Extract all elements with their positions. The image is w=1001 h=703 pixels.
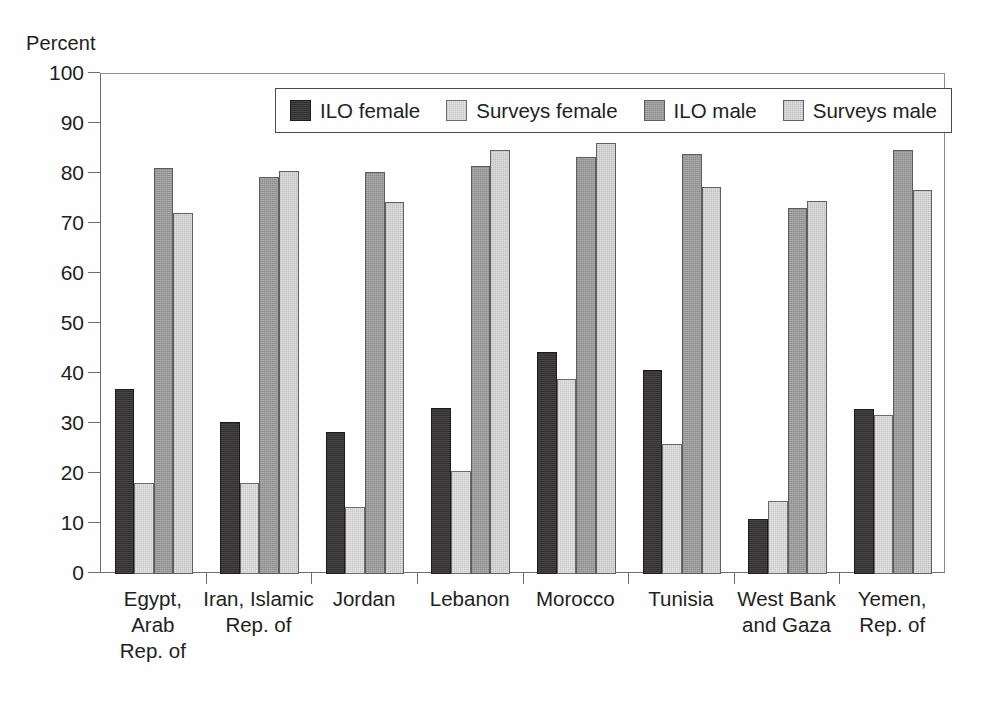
bar [173, 213, 193, 574]
bar [345, 507, 365, 575]
x-axis-group-label-line: Rep. of [831, 612, 953, 638]
bar [431, 408, 451, 574]
x-axis-tick [839, 573, 840, 584]
y-axis-tick [88, 572, 100, 573]
x-axis-group-label-line: and Gaza [726, 612, 848, 638]
bar [788, 208, 808, 575]
x-axis-tick [417, 573, 418, 584]
legend-label: ILO female [320, 99, 420, 123]
x-axis-tick [311, 573, 312, 584]
y-axis-tick [88, 122, 100, 123]
bar [576, 157, 596, 574]
bar [807, 201, 827, 574]
bar [326, 432, 346, 575]
bar [471, 166, 491, 574]
x-axis-group-label: Tunisia [620, 586, 742, 612]
y-axis-tick [88, 422, 100, 423]
y-axis-tick [88, 72, 100, 73]
bar [768, 501, 788, 574]
bar [259, 177, 279, 575]
y-axis-tick-label: 100 [22, 61, 84, 85]
y-axis-tick-label: 70 [22, 211, 84, 235]
x-axis-group-label-line: Morocco [515, 586, 637, 612]
bar [365, 172, 385, 574]
y-axis-tick [88, 372, 100, 373]
legend-swatch-icon [446, 100, 467, 121]
x-axis-group-label-line: Yemen, [831, 586, 953, 612]
bar [748, 519, 768, 574]
bar [682, 154, 702, 574]
x-axis-group-label-line: Egypt, [92, 586, 214, 612]
legend-label: Surveys male [813, 99, 937, 123]
bar [451, 471, 471, 575]
bar [854, 409, 874, 575]
y-axis-tick-label: 80 [22, 161, 84, 185]
y-axis-tick [88, 272, 100, 273]
bar [537, 352, 557, 575]
bar [240, 483, 260, 575]
x-axis-group-label-line: Rep. of [198, 612, 320, 638]
y-axis-tick-label: 30 [22, 411, 84, 435]
y-axis-tick-label: 20 [22, 461, 84, 485]
y-axis-tick-label: 40 [22, 361, 84, 385]
bar [154, 168, 174, 574]
bar-chart: Percent 0102030405060708090100 Egypt,Ara… [0, 0, 1001, 703]
x-axis-tick [628, 573, 629, 584]
x-axis-group-label-line: West Bank [726, 586, 848, 612]
legend-swatch-icon [644, 100, 665, 121]
bar [874, 415, 894, 575]
legend-label: Surveys female [476, 99, 617, 123]
x-axis-group-label: Morocco [515, 586, 637, 612]
y-axis-tick [88, 172, 100, 173]
bar [643, 370, 663, 574]
plot-area [100, 73, 945, 573]
x-axis-group-label: Egypt,ArabRep. of [92, 586, 214, 664]
x-axis-group-label: Jordan [303, 586, 425, 612]
legend-item: Surveys male [783, 99, 937, 123]
y-axis-tick [88, 322, 100, 323]
x-axis-group-label: Lebanon [409, 586, 531, 612]
x-axis-tick [206, 573, 207, 584]
bar [385, 202, 405, 575]
bar [220, 422, 240, 575]
y-axis-tick-label: 10 [22, 511, 84, 535]
y-axis-tick-label: 90 [22, 111, 84, 135]
x-axis-group-label: West Bankand Gaza [726, 586, 848, 638]
bars-layer [101, 74, 946, 574]
y-axis-tick-label: 60 [22, 261, 84, 285]
bar [702, 187, 722, 574]
bar [490, 150, 510, 574]
y-axis-labels: 0102030405060708090100 [12, 0, 84, 703]
bar [596, 143, 616, 575]
x-axis-group-label-line: Rep. of [92, 638, 214, 664]
bar [913, 190, 933, 575]
x-axis-group-label: Iran, IslamicRep. of [198, 586, 320, 638]
legend-swatch-icon [783, 100, 804, 121]
x-axis-group-label-line: Tunisia [620, 586, 742, 612]
bar [557, 379, 577, 574]
bar [134, 483, 154, 574]
x-axis-tick [523, 573, 524, 584]
legend-item: ILO male [644, 99, 757, 123]
y-axis-tick-label: 0 [22, 561, 84, 585]
bar [279, 171, 299, 574]
legend-label: ILO male [674, 99, 757, 123]
bar [115, 389, 135, 574]
legend-item: ILO female [290, 99, 420, 123]
y-axis-tick [88, 222, 100, 223]
x-axis-group-label-line: Lebanon [409, 586, 531, 612]
legend-swatch-icon [290, 100, 311, 121]
x-axis-group-label-line: Iran, Islamic [198, 586, 320, 612]
y-axis-tick [88, 472, 100, 473]
bar [662, 444, 682, 575]
y-axis-tick [88, 522, 100, 523]
x-axis-group-label: Yemen,Rep. of [831, 586, 953, 638]
legend-item: Surveys female [446, 99, 617, 123]
y-axis-tick-label: 50 [22, 311, 84, 335]
x-axis-group-label-line: Arab [92, 612, 214, 638]
chart-legend: ILO femaleSurveys femaleILO maleSurveys … [275, 88, 952, 133]
x-axis-tick [734, 573, 735, 584]
bar [893, 150, 913, 574]
x-axis-group-label-line: Jordan [303, 586, 425, 612]
